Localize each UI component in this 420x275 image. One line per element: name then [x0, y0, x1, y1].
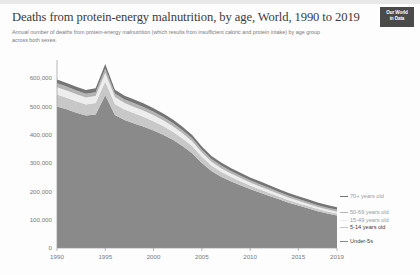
owid-logo[interactable]: Our World in Data	[380, 7, 414, 27]
legend-swatch	[340, 196, 348, 198]
top-bar	[0, 0, 420, 4]
legend-swatch	[340, 227, 348, 229]
chart-subtitle: Annual number of deaths from protein-ene…	[12, 28, 334, 44]
page-title: Deaths from protein-energy malnutrition,…	[12, 10, 352, 25]
x-tick-label: 2005	[195, 253, 209, 260]
legend-label: Under-5s	[350, 237, 373, 245]
chart-header: Deaths from protein-energy malnutrition,…	[12, 10, 352, 44]
legend-label: 5-14 years old	[350, 223, 385, 231]
y-tick-label: 400,000	[30, 131, 53, 138]
y-tick-label: 200,000	[30, 188, 53, 195]
x-tick-label: 2019	[330, 253, 344, 260]
legend-label: 50-69 years old	[350, 208, 389, 216]
x-tick-label: 2000	[147, 253, 161, 260]
x-tick-label: 1990	[50, 253, 64, 260]
y-tick-label: 500,000	[30, 103, 53, 110]
area-series-group	[57, 64, 337, 248]
owid-logo-line2: in Data	[380, 16, 414, 22]
legend-swatch	[340, 220, 348, 222]
x-tick-label: 2015	[291, 253, 305, 260]
legend-swatch	[340, 241, 348, 243]
x-tick-label: 2010	[243, 253, 257, 260]
legend-swatch	[340, 212, 348, 214]
x-axis-labels: 1990199520002005201020152019	[50, 248, 344, 260]
area-series	[57, 95, 337, 248]
y-tick-label: 600,000	[30, 74, 53, 81]
y-tick-label: 100,000	[30, 216, 53, 223]
y-tick-label: 300,000	[30, 159, 53, 166]
x-tick-label: 1995	[98, 253, 112, 260]
chart-page: Deaths from protein-energy malnutrition,…	[0, 0, 420, 275]
y-axis-labels: 0100,000200,000300,000400,000500,000600,…	[30, 74, 53, 251]
legend-label: 70+ years old	[350, 192, 384, 200]
y-tick-label: 0	[49, 244, 53, 251]
